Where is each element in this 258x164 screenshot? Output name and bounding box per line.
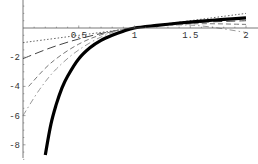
- y-tick-label: -4: [9, 82, 20, 92]
- ticks: [23, 6, 246, 164]
- series-line-approx-3: [29, 24, 246, 87]
- x-tick-label: 0.5: [71, 31, 87, 41]
- chart: 0.511.52-2-4-6-8: [0, 0, 258, 164]
- y-tick-label: -8: [9, 141, 20, 151]
- tick-labels: 0.511.52-2-4-6-8: [9, 31, 249, 151]
- x-tick-label: 1: [132, 31, 137, 41]
- y-tick-label: -2: [9, 53, 20, 63]
- x-tick-label: 1.5: [182, 31, 198, 41]
- x-tick-label: 2: [243, 31, 248, 41]
- y-tick-label: -6: [9, 112, 20, 122]
